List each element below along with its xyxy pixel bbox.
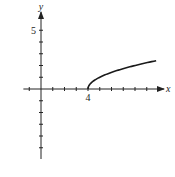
x-axis-label: x bbox=[165, 83, 171, 94]
tick-labels: 45 bbox=[31, 25, 91, 103]
function-graph: x y 45 bbox=[0, 0, 175, 177]
axes bbox=[23, 12, 164, 159]
y-tick-label: 5 bbox=[31, 25, 36, 36]
x-tick-label: 4 bbox=[86, 92, 91, 103]
y-axis-label: y bbox=[38, 1, 44, 12]
sqrt-curve bbox=[88, 61, 156, 89]
